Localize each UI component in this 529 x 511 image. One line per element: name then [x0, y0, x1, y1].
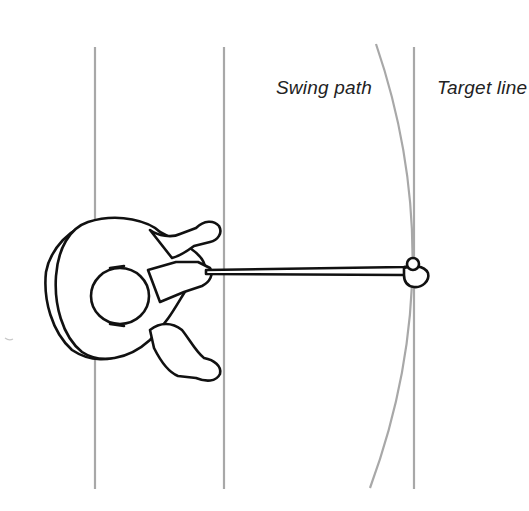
golf-club: [206, 266, 428, 287]
swing-path-label: Swing path: [276, 77, 372, 99]
golfer-figure: [45, 218, 220, 381]
scan-artifact: [5, 338, 13, 340]
target-line-label: Target line: [437, 77, 527, 99]
golfer-head: [91, 268, 149, 324]
golf-ball: [407, 258, 419, 270]
golf-swing-diagram: Swing path Target line: [0, 0, 529, 511]
